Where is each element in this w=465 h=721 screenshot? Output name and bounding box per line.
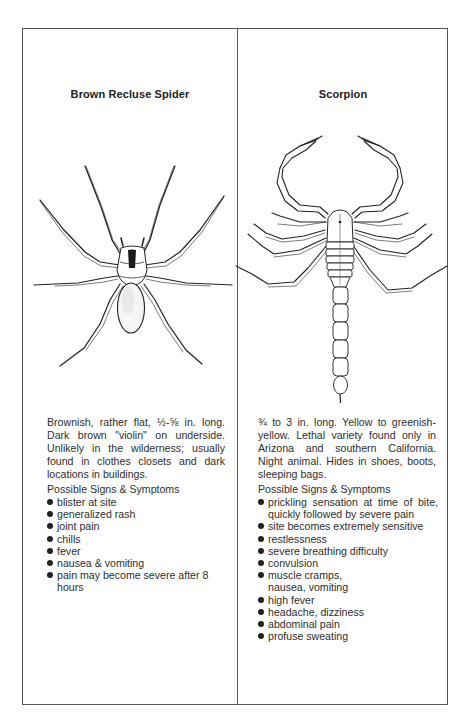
list-item: muscle cramps, nausea, vomiting xyxy=(258,569,438,593)
brown-recluse-column: Brown Recluse Spider xyxy=(23,28,237,705)
bullet-icon xyxy=(258,633,264,639)
scorpion-signs-list: prickling sensation at time of bite, qui… xyxy=(258,496,438,642)
bullet-icon xyxy=(47,511,53,517)
bullet-icon xyxy=(47,499,53,505)
list-item: convulsion xyxy=(258,557,438,569)
scorpion-signs-heading: Possible Signs & Symptoms xyxy=(258,483,390,496)
bullet-icon xyxy=(258,523,264,529)
list-item: site becomes extremely sensitive xyxy=(258,520,438,532)
list-item: chills xyxy=(47,533,227,545)
scorpion-title: Scorpion xyxy=(238,88,448,100)
bullet-icon xyxy=(258,560,264,566)
brown-recluse-spider-illustration xyxy=(23,148,237,388)
scorpion-illustration xyxy=(230,118,456,408)
bullet-icon xyxy=(47,572,53,578)
bullet-icon xyxy=(47,536,53,542)
list-item: severe breathing difficulty xyxy=(258,545,438,557)
scorpion-column: Scorpion xyxy=(238,28,448,705)
list-item: headache, dizziness xyxy=(258,606,438,618)
list-item: nausea & vomiting xyxy=(47,557,227,569)
list-item: pain may become severe after 8 hours xyxy=(47,569,227,593)
list-item: blister at site xyxy=(47,496,227,508)
brown-recluse-title: Brown Recluse Spider xyxy=(23,88,237,100)
bullet-icon xyxy=(258,536,264,542)
list-item: profuse sweating xyxy=(258,630,438,642)
brown-recluse-description: Brownish, rather flat, ½-⅝ in. long. Dar… xyxy=(47,416,225,481)
bullet-icon xyxy=(258,609,264,615)
list-item: generalized rash xyxy=(47,508,227,520)
list-item: prickling sensation at time of bite, qui… xyxy=(258,496,438,520)
brown-recluse-signs-heading: Possible Signs & Symptoms xyxy=(47,483,179,496)
bullet-icon xyxy=(258,548,264,554)
bullet-icon xyxy=(47,523,53,529)
brown-recluse-signs-list: blister at site generalized rash joint p… xyxy=(47,496,227,594)
list-item: restlessness xyxy=(258,533,438,545)
scorpion-description: ¾ to 3 in. long. Yellow to greenish-yell… xyxy=(258,416,436,481)
list-item: abdominal pain xyxy=(258,618,438,630)
bullet-icon xyxy=(258,621,264,627)
bullet-icon xyxy=(258,597,264,603)
bullet-icon xyxy=(47,560,53,566)
list-item: joint pain xyxy=(47,520,227,532)
bullet-icon xyxy=(47,548,53,554)
list-item: high fever xyxy=(258,594,438,606)
bullet-icon xyxy=(258,572,264,578)
list-item: fever xyxy=(47,545,227,557)
bullet-icon xyxy=(258,499,264,505)
